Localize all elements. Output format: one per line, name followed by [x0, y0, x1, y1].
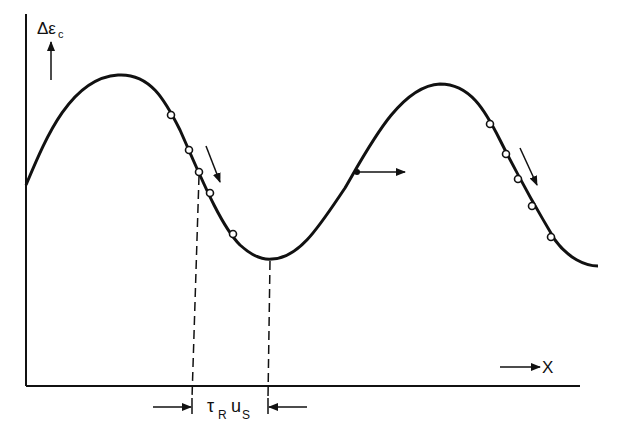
span-label: τ R u S — [207, 396, 250, 422]
right-slope-arrow-icon — [520, 148, 537, 185]
dashed-line-left — [192, 176, 199, 398]
marker-circle — [196, 169, 203, 176]
wave-curve — [26, 75, 598, 266]
dashed-line-right — [268, 261, 270, 398]
marker-circle — [168, 112, 175, 119]
y-axis-label: Δε c — [37, 19, 64, 40]
left-marker-group — [168, 112, 237, 238]
marker-circle — [529, 203, 536, 210]
marker-circle — [548, 234, 555, 241]
marker-circle — [503, 151, 510, 158]
marker-circle — [207, 190, 214, 197]
marker-circle — [230, 231, 237, 238]
svg-text:u: u — [231, 396, 241, 416]
marker-circle — [515, 176, 522, 183]
svg-text:c: c — [58, 28, 64, 40]
svg-text:Δε: Δε — [37, 19, 56, 38]
marker-circle — [186, 147, 193, 154]
wave-diagram: Δε c X τ R u S — [0, 0, 618, 432]
left-slope-arrow-icon — [206, 146, 220, 182]
svg-text:R: R — [218, 408, 227, 422]
x-axis-label: X — [542, 358, 553, 377]
marker-circle — [487, 121, 494, 128]
svg-text:S: S — [242, 408, 250, 422]
svg-text:τ: τ — [207, 396, 214, 416]
